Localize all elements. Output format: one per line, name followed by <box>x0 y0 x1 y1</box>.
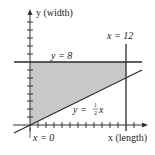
svg-text:1: 1 <box>94 102 97 108</box>
feasible-region-diagram: y (width) x = 12 y = 8 y = 1 2 x x = 0 x… <box>0 0 155 155</box>
x-axis-arrow-icon <box>142 123 148 128</box>
y-equals-8-label: y = 8 <box>50 50 72 61</box>
svg-text:2: 2 <box>94 110 97 116</box>
y-axis-label: y (width) <box>36 7 73 19</box>
y-equals-half-x-label: y = 1 2 x <box>72 102 104 116</box>
y-axis-arrow-icon <box>28 9 33 15</box>
x-equals-12-label: x = 12 <box>106 30 133 41</box>
svg-text:x: x <box>98 104 104 115</box>
shaded-region <box>30 62 126 125</box>
x-equals-0-label: x = 0 <box>32 132 54 143</box>
x-axis-label: x (length) <box>108 132 147 144</box>
svg-text:y =: y = <box>72 104 87 115</box>
